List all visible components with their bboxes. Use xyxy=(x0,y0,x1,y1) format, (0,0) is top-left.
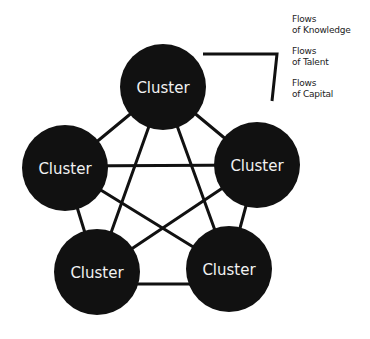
legend-line1: Flows xyxy=(292,14,370,25)
cluster-node-left: Cluster xyxy=(22,125,108,211)
nodes: Cluster Cluster Cluster Cluster Cluster xyxy=(22,44,300,315)
legend-line1: Flows xyxy=(292,78,370,89)
legend-bracket xyxy=(203,54,277,101)
cluster-label: Cluster xyxy=(136,79,190,97)
legend-item-knowledge: Flows of Knowledge xyxy=(292,14,370,36)
legend-line1: Flows xyxy=(292,46,370,57)
legend-line2: of Capital xyxy=(292,89,370,100)
cluster-node-top: Cluster xyxy=(120,44,206,130)
cluster-node-right: Cluster xyxy=(214,122,300,208)
cluster-label: Cluster xyxy=(202,261,256,279)
cluster-node-bottom-right: Cluster xyxy=(186,226,272,312)
legend: Flows of Knowledge Flows of Talent Flows… xyxy=(292,14,370,100)
cluster-label: Cluster xyxy=(70,264,124,282)
cluster-label: Cluster xyxy=(38,160,92,178)
legend-line2: of Knowledge xyxy=(292,25,370,36)
legend-line2: of Talent xyxy=(292,57,370,68)
cluster-node-bottom-left: Cluster xyxy=(54,229,140,315)
cluster-label: Cluster xyxy=(230,157,284,175)
legend-item-talent: Flows of Talent xyxy=(292,46,370,68)
legend-item-capital: Flows of Capital xyxy=(292,78,370,100)
